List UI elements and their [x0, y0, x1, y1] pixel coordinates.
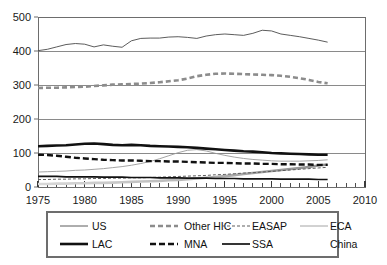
x-tick-label-2000: 2000 [259, 194, 283, 206]
x-tick-label-2005: 2005 [306, 194, 330, 206]
x-tick-label-1990: 1990 [166, 194, 190, 206]
legend-border [47, 212, 338, 257]
x-tick-label-1995: 1995 [213, 194, 237, 206]
y-tick-label-200: 200 [13, 113, 31, 125]
x-tick-label-1985: 1985 [119, 194, 143, 206]
y-tick-label-100: 100 [13, 147, 31, 159]
x-tick-label-1980: 1980 [72, 194, 96, 206]
legend-label-easap: EASAP [252, 220, 287, 232]
y-tick-label-400: 400 [13, 45, 31, 57]
y-tick-label-0: 0 [25, 181, 31, 193]
x-tick-label-1975: 1975 [26, 194, 50, 206]
legend-label-eca: ECA [330, 220, 352, 232]
y-tick-label-500: 500 [13, 11, 31, 23]
chart-legend: USOther HICEASAPECALACMNASSAChina [47, 212, 358, 257]
x-tick-label-2010: 2010 [353, 194, 377, 206]
legend-label-ssa: SSA [252, 238, 273, 250]
chart-figure: 0100200300400500 19751980198519901995200… [0, 0, 387, 265]
legend-label-lac: LAC [92, 238, 113, 250]
legend-label-us: US [92, 220, 107, 232]
line-chart: 0100200300400500 19751980198519901995200… [0, 0, 387, 265]
y-tick-label-300: 300 [13, 79, 31, 91]
legend-label-mna: MNA [184, 238, 207, 250]
legend-label-china: China [330, 238, 358, 250]
